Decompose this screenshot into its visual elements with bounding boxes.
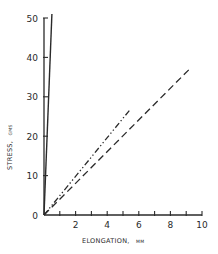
- y-axis-title: STRESS, GMS: [6, 124, 14, 170]
- series-dashed-line: [44, 69, 189, 215]
- x-tick-label: 6: [136, 220, 142, 230]
- y-tick-label: 0: [32, 211, 38, 221]
- x-tick-label: 4: [104, 220, 110, 230]
- y-tick-label: 30: [27, 92, 39, 102]
- series-dash-dot-dot-line: [44, 111, 129, 215]
- axes: 01020304050246810: [27, 14, 208, 231]
- chart-canvas: 01020304050246810 ELONGATION, MM STRESS,…: [0, 0, 218, 254]
- y-tick-label: 20: [27, 132, 39, 142]
- y-tick-label: 50: [27, 14, 39, 24]
- series-solid-line: [44, 14, 52, 215]
- y-tick-label: 40: [27, 53, 39, 63]
- x-axis-title: ELONGATION, MM: [82, 237, 144, 245]
- x-tick-label: 8: [168, 220, 174, 230]
- x-tick-label: 10: [196, 220, 208, 230]
- x-tick-label: 2: [73, 220, 79, 230]
- stress-elongation-chart: 01020304050246810 ELONGATION, MM STRESS,…: [0, 0, 218, 254]
- y-tick-label: 10: [27, 171, 39, 181]
- series-group: [44, 14, 189, 215]
